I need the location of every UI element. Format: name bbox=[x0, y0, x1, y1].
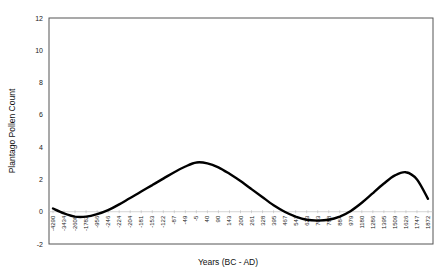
x-tick-label: 200 bbox=[238, 215, 244, 226]
x-tick-label: 143 bbox=[226, 215, 232, 226]
y-tick-label: 6 bbox=[39, 111, 43, 118]
x-tick-label: 1509 bbox=[392, 215, 398, 229]
x-tick-label: 261 bbox=[249, 215, 255, 226]
x-tick-label: 1872 bbox=[425, 215, 431, 229]
y-tick-label: 8 bbox=[39, 79, 43, 86]
x-tick-label: 40 bbox=[204, 215, 210, 222]
line-chart: -2024681012 -4290-3434-2608-1782-956-246… bbox=[0, 0, 445, 279]
y-tick-label: 12 bbox=[35, 15, 43, 22]
x-tick-label: 1286 bbox=[370, 215, 376, 229]
x-tick-label: 467 bbox=[282, 215, 288, 226]
x-tick-label: -5 bbox=[193, 215, 199, 221]
x-tick-label: 90 bbox=[215, 215, 221, 222]
x-tick-label: 1395 bbox=[381, 215, 387, 229]
x-tick-label: 1747 bbox=[414, 215, 420, 229]
x-tick-label: -956 bbox=[94, 215, 100, 228]
x-axis-title: Years (BC - AD) bbox=[198, 257, 258, 267]
x-tick-label: -49 bbox=[182, 215, 188, 224]
x-tick-label: 1626 bbox=[403, 215, 409, 229]
x-tick-label: 979 bbox=[348, 215, 354, 226]
x-tick-label: -153 bbox=[149, 215, 155, 228]
x-tick-label: -3434 bbox=[61, 215, 67, 231]
x-tick-label: 328 bbox=[260, 215, 266, 226]
y-axis: -2024681012 bbox=[35, 15, 43, 248]
x-tick-label: -4290 bbox=[50, 215, 56, 231]
x-tick-label: -122 bbox=[160, 215, 166, 228]
y-tick-label: 0 bbox=[39, 208, 43, 215]
x-tick-label: 395 bbox=[271, 215, 277, 226]
x-tick-label: -246 bbox=[105, 215, 111, 228]
x-tick-label: -224 bbox=[116, 215, 122, 228]
y-tick-label: 4 bbox=[39, 144, 43, 151]
x-tick-label: -87 bbox=[171, 215, 177, 224]
y-tick-label: 10 bbox=[35, 47, 43, 54]
x-tick-label: -204 bbox=[127, 215, 133, 228]
y-axis-title: Plantago Pollen Count bbox=[7, 88, 17, 173]
x-tick-label: 1180 bbox=[359, 215, 365, 229]
x-tick-label: -181 bbox=[138, 215, 144, 228]
y-tick-label: 2 bbox=[39, 176, 43, 183]
y-tick-label: -2 bbox=[37, 241, 43, 248]
